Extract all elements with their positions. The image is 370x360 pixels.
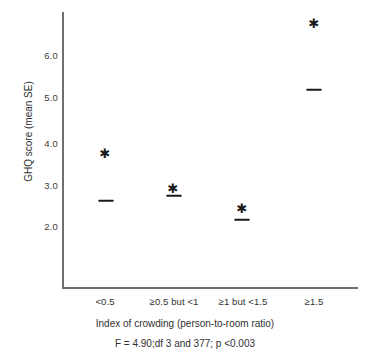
y-tick-label-6: 6.0 [32,51,58,61]
x-tick-label-group2: ≥0.5 but <1 [150,296,199,307]
x-tick-label-group3: ≥1 but <1.5 [219,296,268,307]
data-point-asterisk-group3: ✱ [237,202,248,215]
statistics-footnote: F = 4.90;df 3 and 377; p <0.003 [0,338,370,350]
x-tick-label-group1: <0.5 [95,296,114,307]
data-point-dash-group1 [99,200,114,202]
y-tick-label-5: 5.0 [32,93,58,103]
x-tick-label-group4: ≥1.5 [305,296,324,307]
data-point-asterisk-group2: ✱ [168,182,179,195]
data-point-asterisk-group4: ✱ [309,17,320,30]
y-axis-title: GHQ score (mean SE) [23,52,34,212]
data-point-dash-group3 [235,219,250,221]
y-tick-label-4: 4.0 [32,139,58,149]
data-point-dash-group2 [167,195,182,197]
x-axis-title: Index of crowding (person-to-room ratio) [0,318,370,330]
y-tick-label-3: 3.0 [32,181,58,191]
y-axis-tick-labels: 6.0 5.0 4.0 3.0 2.0 [30,0,58,360]
x-axis-line [62,287,358,289]
y-axis-line [62,12,64,288]
plot-area: 6.0 5.0 4.0 3.0 2.0 GHQ score (mean SE) … [0,0,370,360]
data-point-dash-group4 [307,89,322,91]
data-point-asterisk-group1: ✱ [100,147,111,160]
y-tick-label-2: 2.0 [32,222,58,232]
chart-figure: 6.0 5.0 4.0 3.0 2.0 GHQ score (mean SE) … [0,0,370,360]
